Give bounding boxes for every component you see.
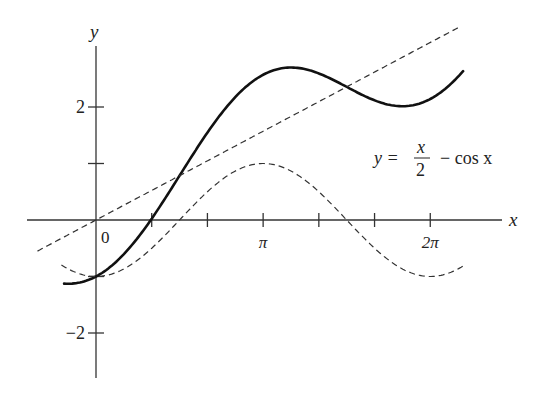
equation-annotation: y = x 2 − cos x bbox=[372, 137, 492, 180]
equation-lhs: y = bbox=[372, 148, 399, 168]
equation-numerator: x bbox=[416, 137, 425, 157]
origin-label: 0 bbox=[101, 228, 110, 247]
x-axis-ticks: π2π bbox=[152, 213, 440, 252]
plot-area: π2π 2−2 y x 0 y = x 2 − cos x bbox=[0, 0, 556, 406]
y-tick-label: 2 bbox=[76, 97, 85, 117]
dashed-line-x-over-2 bbox=[38, 28, 458, 251]
x-tick-label: 2π bbox=[422, 233, 440, 252]
equation-denominator: 2 bbox=[416, 160, 425, 180]
y-axis-label: y bbox=[88, 21, 99, 42]
x-axis-label: x bbox=[508, 209, 518, 230]
equation-rhs: − cos x bbox=[440, 148, 492, 168]
y-tick-label: −2 bbox=[66, 323, 85, 343]
x-tick-label: π bbox=[259, 233, 268, 252]
